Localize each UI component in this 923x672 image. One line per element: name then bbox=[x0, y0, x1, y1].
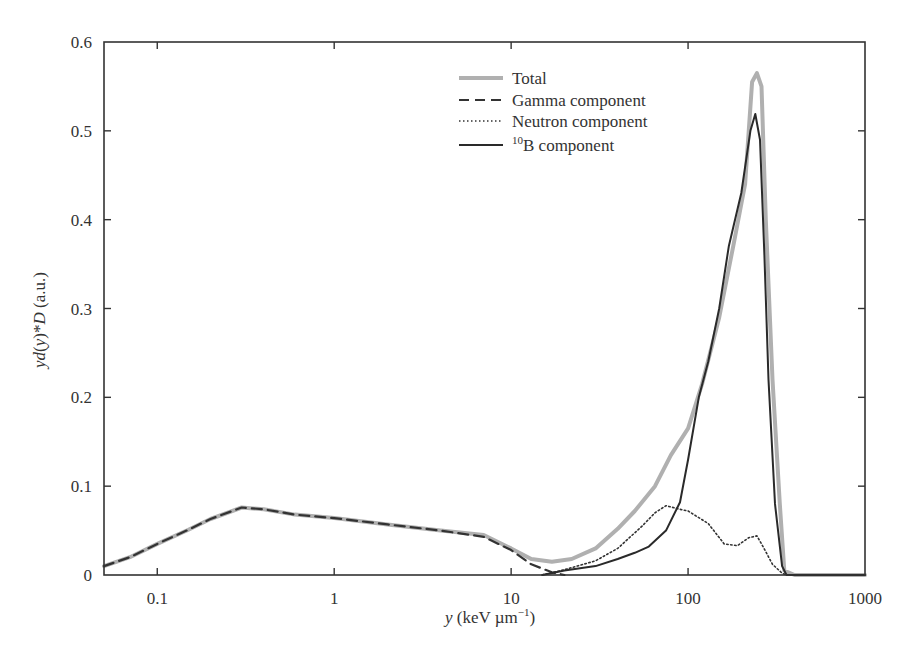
x-tick-label: 1000 bbox=[848, 589, 882, 608]
series-neutron-component bbox=[542, 506, 865, 575]
legend-label-b10-text: B component bbox=[523, 136, 614, 155]
legend-label-neutron: Neutron component bbox=[512, 112, 648, 131]
y-axis-label-d: )* bbox=[30, 324, 49, 338]
x-tick-label: 1 bbox=[330, 589, 339, 608]
y-tick-label: 0.5 bbox=[71, 122, 92, 141]
legend: Total Gamma component Neutron component … bbox=[459, 69, 648, 155]
x-axis-label: y (keV µm−1) bbox=[443, 606, 535, 627]
y-tick-label: 0.6 bbox=[71, 33, 92, 52]
series-10b-component bbox=[542, 114, 865, 575]
x-axis-label-units: (keV µm bbox=[452, 608, 517, 627]
y-tick-label: 0 bbox=[84, 566, 93, 585]
x-axis-label-close: ) bbox=[529, 608, 535, 627]
legend-label-gamma: Gamma component bbox=[512, 91, 646, 110]
legend-label-b10-sup: 10 bbox=[512, 134, 524, 146]
x-axis-label-var: y bbox=[443, 608, 453, 627]
y-tick-label: 0.1 bbox=[71, 477, 92, 496]
y-axis-label-c: y bbox=[30, 338, 49, 348]
x-tick-label: 100 bbox=[675, 589, 701, 608]
x-tick-label: 0.1 bbox=[147, 589, 168, 608]
y-tick-label: 0.4 bbox=[71, 211, 93, 230]
y-tick-label: 0.2 bbox=[71, 388, 92, 407]
y-axis-label-e: D bbox=[30, 311, 49, 325]
y-axis-label-f: (a.u.) bbox=[30, 272, 49, 312]
y-tick-label: 0.3 bbox=[71, 300, 92, 319]
y-axis-label: yd(y)*D (a.u.) bbox=[30, 272, 49, 370]
legend-label-total: Total bbox=[512, 69, 547, 88]
y-axis-label-a: yd bbox=[30, 351, 49, 370]
legend-label-b10: 10B component bbox=[512, 134, 614, 155]
x-axis-label-exp: −1 bbox=[518, 606, 530, 618]
series-layer bbox=[104, 73, 865, 575]
series-gamma-component bbox=[104, 508, 564, 576]
chart: 0.1110100100000.10.20.30.40.50.6 Total G… bbox=[0, 0, 923, 672]
axis-ticks: 0.1110100100000.10.20.30.40.50.6 bbox=[71, 33, 882, 608]
series-total bbox=[104, 73, 865, 575]
